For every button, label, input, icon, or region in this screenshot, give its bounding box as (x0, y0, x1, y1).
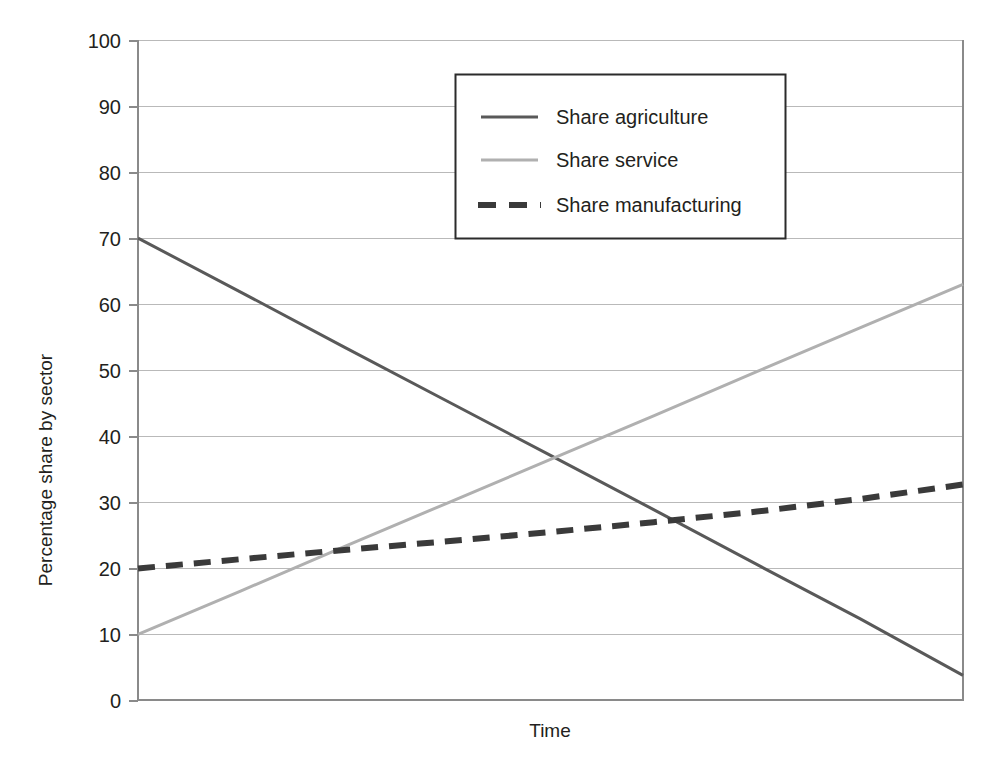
y-tick-label: 10 (99, 624, 121, 646)
legend-item-label: Share manufacturing (556, 194, 742, 216)
y-tick-label: 0 (110, 690, 121, 712)
y-tick-label: 70 (99, 228, 121, 250)
y-tick-label: 80 (99, 162, 121, 184)
x-axis-title: Time (529, 720, 571, 741)
y-tick-label: 40 (99, 426, 121, 448)
y-tick-label: 100 (88, 30, 121, 52)
y-axis-title: Percentage share by sector (35, 353, 56, 586)
y-tick-label: 60 (99, 294, 121, 316)
y-tick-label: 50 (99, 360, 121, 382)
y-tick-label: 20 (99, 558, 121, 580)
line-chart-figure: 100 90 80 70 60 50 40 30 20 10 0 Percent… (0, 0, 989, 768)
legend-item-label: Share agriculture (556, 106, 708, 128)
y-tick-label: 90 (99, 96, 121, 118)
legend: Share agriculture Share service Share ma… (456, 75, 786, 239)
legend-item-label: Share service (556, 149, 678, 171)
y-tick-label: 30 (99, 492, 121, 514)
